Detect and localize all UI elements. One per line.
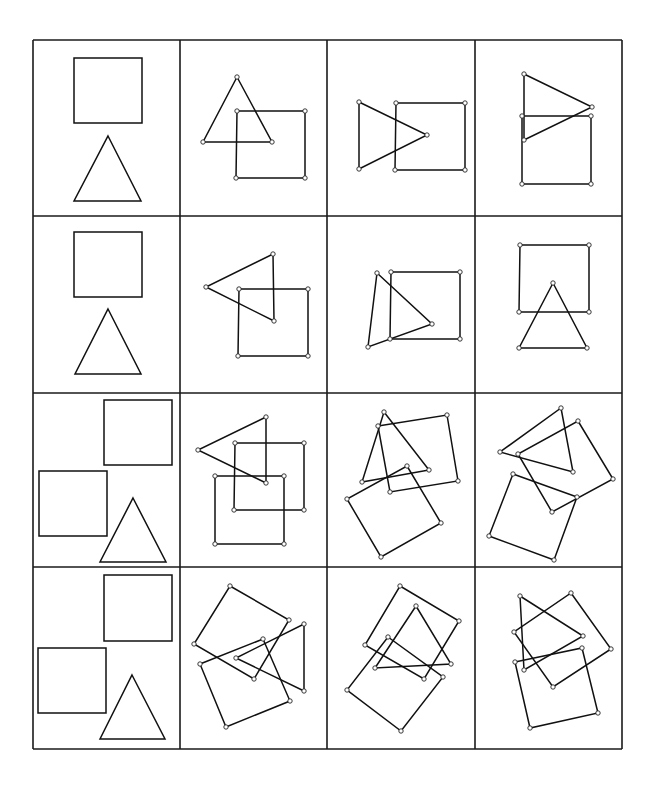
vertex-marker-icon	[389, 270, 393, 274]
vertex-marker-icon	[302, 689, 306, 693]
vertex-marker-icon	[232, 508, 236, 512]
vertex-marker-icon	[550, 510, 554, 514]
vertex-marker-icon	[522, 138, 526, 142]
grid-cell-r0-c1-triangle-overlap-square	[201, 75, 307, 180]
vertex-marker-icon	[487, 534, 491, 538]
vertex-marker-icon	[234, 656, 238, 660]
vertex-marker-icon	[551, 685, 555, 689]
vertex-marker-icon	[303, 109, 307, 113]
vertex-marker-icon	[463, 101, 467, 105]
vertex-marker-icon	[518, 243, 522, 247]
vertex-marker-icon	[585, 346, 589, 350]
square-shape	[522, 116, 591, 184]
square-shape	[347, 637, 443, 731]
vertex-marker-icon	[571, 470, 575, 474]
triangle-shape	[500, 408, 573, 472]
vertex-marker-icon	[388, 337, 392, 341]
grid-cell-r2-c2-rotated-triangle-two-squares	[345, 410, 460, 559]
vertex-marker-icon	[449, 662, 453, 666]
vertex-marker-icon	[235, 109, 239, 113]
vertex-marker-icon	[458, 337, 462, 341]
triangle-shape	[236, 624, 304, 691]
vertex-marker-icon	[575, 495, 579, 499]
vertex-marker-icon	[422, 677, 426, 681]
vertex-marker-icon	[288, 699, 292, 703]
vertex-marker-icon	[520, 182, 524, 186]
vertex-marker-icon	[357, 167, 361, 171]
vertex-marker-icon	[302, 622, 306, 626]
vertex-marker-icon	[287, 618, 291, 622]
vertex-marker-icon	[498, 450, 502, 454]
vertex-marker-icon	[252, 677, 256, 681]
square-shape	[104, 400, 172, 465]
vertex-marker-icon	[282, 474, 286, 478]
vertex-marker-icon	[198, 662, 202, 666]
vertex-marker-icon	[520, 114, 524, 118]
square-shape	[38, 648, 106, 713]
vertex-marker-icon	[528, 726, 532, 730]
vertex-marker-icon	[213, 474, 217, 478]
square-shape	[489, 474, 577, 560]
vertex-marker-icon	[425, 133, 429, 137]
square-shape	[514, 593, 611, 687]
vertex-marker-icon	[456, 479, 460, 483]
vertex-marker-icon	[587, 310, 591, 314]
vertex-marker-icon	[441, 675, 445, 679]
triangle-shape	[74, 136, 141, 201]
vertex-marker-icon	[587, 243, 591, 247]
vertex-marker-icon	[427, 468, 431, 472]
vertex-marker-icon	[414, 604, 418, 608]
vertex-marker-icon	[457, 619, 461, 623]
vertex-marker-icon	[196, 448, 200, 452]
vertex-marker-icon	[609, 647, 613, 651]
vertex-marker-icon	[611, 477, 615, 481]
grid-cell-r2-c1-left-triangle-two-squares	[196, 415, 306, 546]
grid-cell-r3-c2-rotated-triangle-two-squares	[345, 584, 461, 733]
triangle-shape	[524, 74, 592, 140]
vertex-marker-icon	[375, 271, 379, 275]
vertex-marker-icon	[264, 415, 268, 419]
vertex-marker-icon	[581, 634, 585, 638]
triangle-shape	[359, 102, 427, 169]
cell-grid	[33, 40, 622, 749]
grid-cell-r3-c1-rotated-triangle-two-squares	[192, 584, 306, 729]
grid-cell-r0-c0-square-and-triangle-reference	[74, 58, 142, 201]
vertex-marker-icon	[373, 666, 377, 670]
square-shape	[395, 103, 465, 170]
vertex-marker-icon	[345, 688, 349, 692]
vertex-marker-icon	[430, 322, 434, 326]
vertex-marker-icon	[517, 346, 521, 350]
grid-cell-r3-c3-rotated-triangle-two-squares	[512, 591, 613, 730]
grid-cell-r3-c0-two-squares-and-triangle-reference	[38, 575, 172, 739]
vertex-marker-icon	[201, 140, 205, 144]
vertex-marker-icon	[458, 270, 462, 274]
square-shape	[519, 245, 589, 312]
vertex-marker-icon	[522, 668, 526, 672]
vertex-marker-icon	[345, 497, 349, 501]
vertex-marker-icon	[302, 508, 306, 512]
grid-cell-r2-c3-rotated-triangle-two-squares	[487, 406, 615, 562]
vertex-marker-icon	[270, 140, 274, 144]
vertex-marker-icon	[224, 725, 228, 729]
vertex-marker-icon	[376, 424, 380, 428]
vertex-marker-icon	[303, 176, 307, 180]
vertex-marker-icon	[388, 490, 392, 494]
vertex-marker-icon	[512, 630, 516, 634]
vertex-marker-icon	[235, 75, 239, 79]
vertex-marker-icon	[228, 584, 232, 588]
vertex-marker-icon	[213, 542, 217, 546]
vertex-marker-icon	[302, 441, 306, 445]
vertex-marker-icon	[517, 310, 521, 314]
vertex-marker-icon	[272, 319, 276, 323]
vertex-marker-icon	[271, 252, 275, 256]
triangle-shape	[75, 309, 141, 374]
vertex-marker-icon	[234, 176, 238, 180]
vertex-marker-icon	[282, 542, 286, 546]
vertex-marker-icon	[463, 168, 467, 172]
vertex-marker-icon	[580, 646, 584, 650]
vertex-marker-icon	[552, 558, 556, 562]
vertex-marker-icon	[398, 584, 402, 588]
vertex-marker-icon	[394, 101, 398, 105]
vertex-marker-icon	[237, 287, 241, 291]
triangle-shape	[368, 273, 432, 347]
